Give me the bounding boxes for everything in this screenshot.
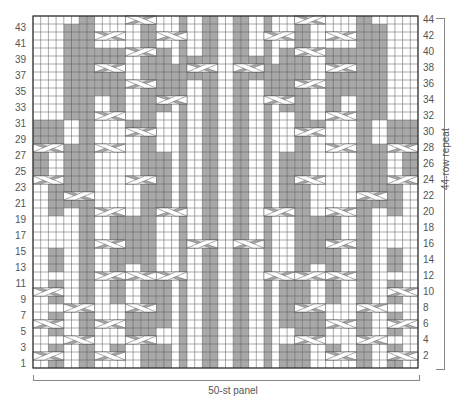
row-label-right: 6 [423,319,429,329]
row-label-right: 18 [423,223,434,233]
row-label-right: 14 [423,255,434,265]
row-label-left: 17 [0,231,26,241]
row-label-left: 31 [0,119,26,129]
row-label-left: 35 [0,87,26,97]
row-label-right: 40 [423,47,434,57]
row-label-left: 37 [0,71,26,81]
panel-label: 50-st panel [0,385,466,396]
row-label-right: 38 [423,63,434,73]
row-label-right: 36 [423,79,434,89]
row-label-left: 27 [0,151,26,161]
repeat-label: 44-row repeat [440,128,451,190]
row-label-left: 5 [0,327,26,337]
row-label-right: 30 [423,127,434,137]
row-label-left: 13 [0,263,26,273]
row-label-left: 23 [0,183,26,193]
row-label-right: 12 [423,271,434,281]
row-label-left: 3 [0,343,26,353]
row-label-left: 25 [0,167,26,177]
row-label-left: 7 [0,311,26,321]
row-label-left: 1 [0,359,26,369]
row-label-right: 16 [423,239,434,249]
row-label-right: 24 [423,175,434,185]
row-label-left: 39 [0,55,26,65]
row-label-right: 44 [423,15,434,25]
row-label-left: 15 [0,247,26,257]
row-label-left: 21 [0,199,26,209]
row-label-right: 22 [423,191,434,201]
row-label-left: 43 [0,23,26,33]
row-label-left: 11 [0,279,26,289]
row-label-right: 42 [423,31,434,41]
row-label-left: 33 [0,103,26,113]
row-label-right: 2 [423,351,429,361]
row-label-right: 28 [423,143,434,153]
row-label-right: 34 [423,95,434,105]
row-label-right: 26 [423,159,434,169]
row-label-left: 41 [0,39,26,49]
row-label-right: 20 [423,207,434,217]
repeat-bracket [436,18,445,370]
row-label-left: 29 [0,135,26,145]
row-label-right: 10 [423,287,434,297]
row-label-right: 4 [423,335,429,345]
knitting-chart-grid [0,0,466,404]
row-label-right: 8 [423,303,429,313]
row-label-left: 19 [0,215,26,225]
row-label-right: 32 [423,111,434,121]
panel-bracket [33,375,420,381]
row-label-left: 9 [0,295,26,305]
